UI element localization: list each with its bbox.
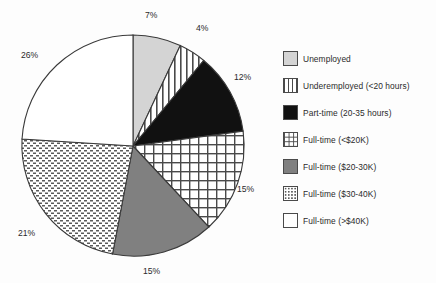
legend-item-fulltime-20-30k[interactable]: Full-time ($20-30K) <box>283 153 436 180</box>
legend-item-part-time[interactable]: Part-time (20-35 hours) <box>283 99 436 126</box>
legend-item-underemployed[interactable]: Underemployed (<20 hours) <box>283 72 436 99</box>
pie-label-underemployed: 4% <box>196 23 208 33</box>
pie-chart-plot: 7% 4% 12% 15% 15% 21% 26% <box>0 0 268 283</box>
pie-label-fulltime-20-30k: 15% <box>143 266 160 276</box>
pie-label-unemployed: 7% <box>145 10 157 20</box>
legend-swatch-fulltime-under20k <box>283 132 298 147</box>
legend-label-unemployed: Unemployed <box>303 54 351 64</box>
legend-item-fulltime-30-40k[interactable]: Full-time ($30-40K) <box>283 180 436 207</box>
pie-svg <box>0 0 268 283</box>
pie-label-fulltime-30-40k: 21% <box>18 228 35 238</box>
pie-chart-figure: 7% 4% 12% 15% 15% 21% 26% Unemployed Und… <box>0 0 436 283</box>
legend-swatch-part-time <box>283 105 298 120</box>
pie-slice-fulltime-30-40k <box>22 139 133 254</box>
legend-label-fulltime-20-30k: Full-time ($20-30K) <box>303 162 376 172</box>
pie-label-fulltime-over40k: 26% <box>21 50 38 60</box>
legend-label-part-time: Part-time (20-35 hours) <box>303 108 392 118</box>
legend-item-fulltime-over40k[interactable]: Full-time (>$40K) <box>283 207 436 234</box>
pie-slice-fulltime-over40k <box>22 35 133 146</box>
legend-item-fulltime-under20k[interactable]: Full-time (<$20K) <box>283 126 436 153</box>
pie-label-part-time: 12% <box>234 72 251 82</box>
legend-label-fulltime-under20k: Full-time (<$20K) <box>303 135 369 145</box>
legend-swatch-fulltime-30-40k <box>283 186 298 201</box>
legend-label-fulltime-30-40k: Full-time ($30-40K) <box>303 189 376 199</box>
chart-legend: Unemployed Underemployed (<20 hours) Par… <box>283 45 436 234</box>
legend-label-fulltime-over40k: Full-time (>$40K) <box>303 216 369 226</box>
legend-swatch-underemployed <box>283 78 298 93</box>
legend-swatch-unemployed <box>283 51 298 66</box>
pie-label-fulltime-under20k: 15% <box>237 184 254 194</box>
legend-swatch-fulltime-over40k <box>283 213 298 228</box>
legend-label-underemployed: Underemployed (<20 hours) <box>303 81 410 91</box>
legend-swatch-fulltime-20-30k <box>283 159 298 174</box>
legend-item-unemployed[interactable]: Unemployed <box>283 45 436 72</box>
